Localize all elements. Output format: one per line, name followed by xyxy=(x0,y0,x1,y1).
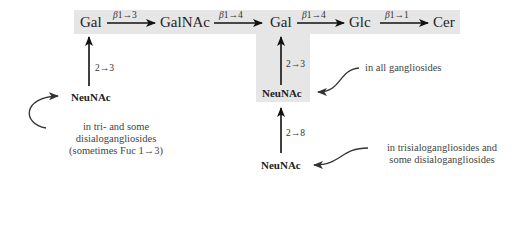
lower-note-line-1: in trisialogangliosides and xyxy=(372,142,512,154)
center-note: in all gangliosides xyxy=(365,62,441,74)
lower-bond-label: 2→8 xyxy=(286,129,305,139)
left-neunac: NeuNAc xyxy=(71,92,111,103)
curve-center-note xyxy=(318,68,359,92)
left-note-line-3: (sometimes Fuc 1→3) xyxy=(54,145,178,157)
left-note-line-1: in tri- and some xyxy=(54,121,178,133)
left-bond-label: 2→3 xyxy=(95,64,114,74)
curve-lower-note xyxy=(314,148,368,165)
center-neunac: NeuNAc xyxy=(262,88,302,99)
left-note: in tri- and some disialogangliosides (so… xyxy=(54,121,178,157)
lower-note: in trisialogangliosides and some disialo… xyxy=(372,142,512,166)
lower-note-line-2: some disialogangliosides xyxy=(372,154,512,166)
left-note-line-2: disialogangliosides xyxy=(54,133,178,145)
lower-neunac: NeuNAc xyxy=(261,160,301,171)
center-bond-label: 2→3 xyxy=(286,60,305,70)
